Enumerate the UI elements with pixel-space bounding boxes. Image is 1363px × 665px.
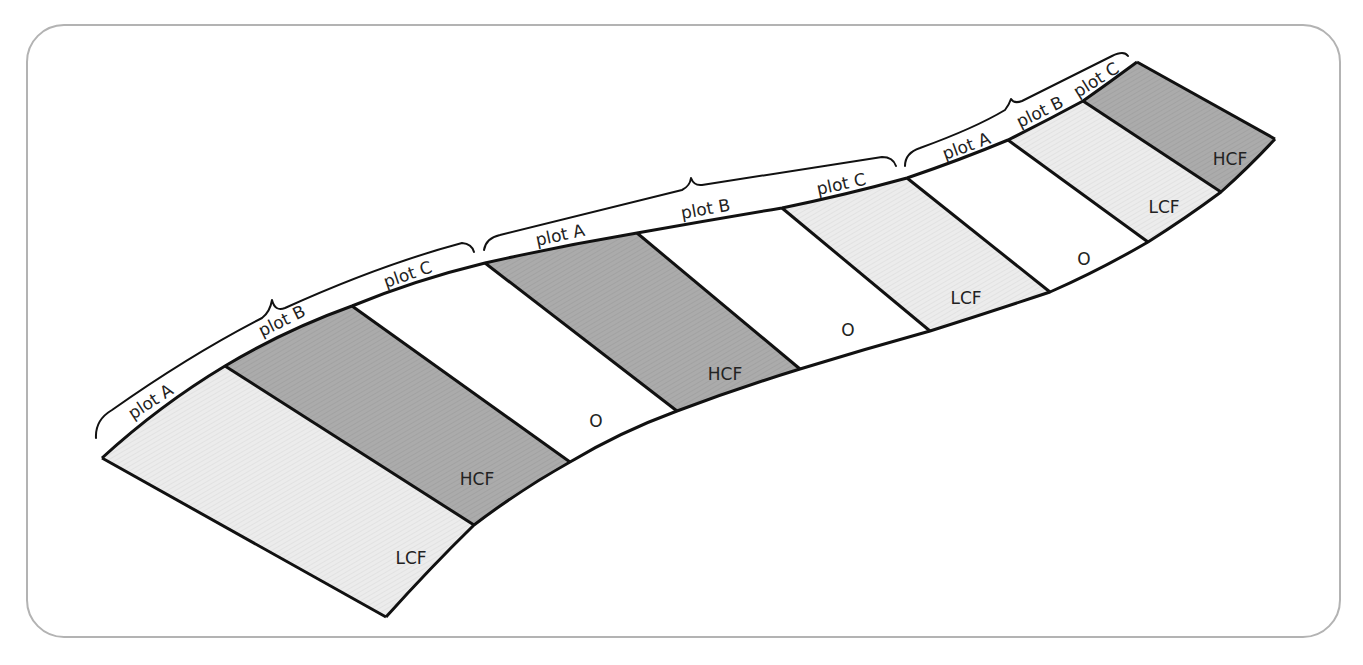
treatment-label-lcf: LCF <box>395 548 426 568</box>
treatment-label-lcf: LCF <box>950 288 981 308</box>
treatment-label-o: O <box>589 411 602 431</box>
field-plot-diagram: plot A plot B plot C plot A plot B plot … <box>0 0 1363 665</box>
treatment-label-hcf: HCF <box>460 469 494 489</box>
treatment-label-hcf: HCF <box>1213 149 1247 169</box>
treatment-label-hcf: HCF <box>708 364 742 384</box>
treatment-label-o: O <box>841 320 854 340</box>
strips <box>102 62 1275 617</box>
treatment-label-o: O <box>1077 249 1090 269</box>
treatment-label-lcf: LCF <box>1148 197 1179 217</box>
